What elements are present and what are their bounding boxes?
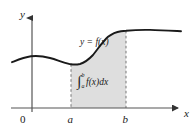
curve-label: y = f(x) [79, 37, 109, 48]
x-tick-label-a: a [68, 113, 74, 125]
integral-figure: y x 0 a b y = f(x) ∫ b a f(x)dx [0, 0, 196, 134]
integral-upper-limit: b [82, 72, 85, 78]
x-axis-label: x [183, 107, 189, 119]
x-tick-label-b: b [123, 113, 129, 125]
figure-canvas: y x 0 a b y = f(x) ∫ b a f(x)dx [0, 0, 196, 134]
origin-label: 0 [20, 113, 26, 125]
integrand-expression: f(x)dx [86, 77, 109, 88]
integral-lower-limit: a [82, 83, 85, 89]
y-axis-label: y [19, 8, 25, 20]
